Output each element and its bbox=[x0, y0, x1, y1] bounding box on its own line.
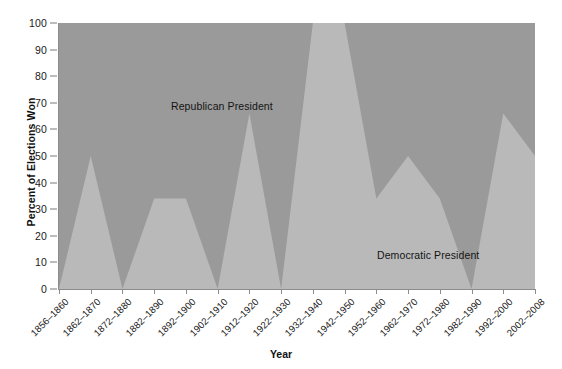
annotation-republican-president: Republican President bbox=[171, 100, 273, 112]
x-tick-mark bbox=[408, 289, 409, 294]
x-tick-mark bbox=[91, 289, 92, 294]
y-tick-mark bbox=[50, 76, 57, 77]
y-tick-label: 90 bbox=[35, 44, 47, 56]
y-tick-mark bbox=[50, 182, 57, 183]
x-tick-mark bbox=[122, 289, 123, 294]
y-tick-mark bbox=[50, 235, 57, 236]
y-tick-mark bbox=[50, 23, 57, 24]
x-tick-mark bbox=[154, 289, 155, 294]
x-tick-mark bbox=[440, 289, 441, 294]
y-tick-mark bbox=[50, 102, 57, 103]
x-tick-mark bbox=[313, 289, 314, 294]
y-tick-mark bbox=[50, 156, 57, 157]
x-tick-mark bbox=[503, 289, 504, 294]
x-tick-mark bbox=[59, 289, 60, 294]
x-tick-mark bbox=[472, 289, 473, 294]
x-tick-mark bbox=[186, 289, 187, 294]
x-tick-mark bbox=[345, 289, 346, 294]
x-axis-title: Year bbox=[0, 348, 562, 360]
plot-area: Republican President Democratic Presiden… bbox=[59, 23, 535, 289]
y-tick-label: 100 bbox=[29, 17, 47, 29]
y-tick-mark bbox=[50, 209, 57, 210]
y-axis-title: Percent of Elections Won bbox=[25, 67, 37, 257]
x-tick-mark bbox=[535, 289, 536, 294]
chart-figure: 0102030405060708090100 Percent of Electi… bbox=[0, 0, 562, 369]
y-tick-label: 10 bbox=[35, 256, 47, 268]
x-tick-mark bbox=[281, 289, 282, 294]
y-tick-mark bbox=[50, 49, 57, 50]
y-tick-mark bbox=[50, 129, 57, 130]
y-tick-mark bbox=[50, 262, 57, 263]
x-tick-mark bbox=[218, 289, 219, 294]
x-tick-mark bbox=[249, 289, 250, 294]
x-tick-mark bbox=[376, 289, 377, 294]
annotation-democratic-president: Democratic President bbox=[377, 249, 479, 261]
